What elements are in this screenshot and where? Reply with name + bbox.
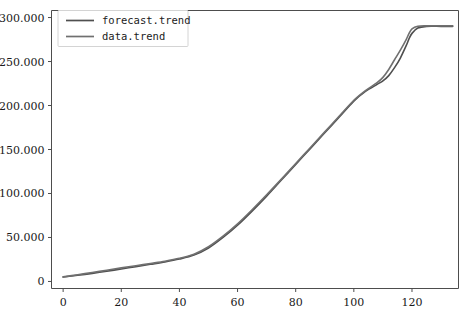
series-line-1	[63, 26, 453, 277]
chart-legend: forecast.trenddata.trend	[58, 11, 191, 47]
y-tick-label: 300.000	[0, 12, 45, 25]
legend-label-1: data.trend	[102, 30, 165, 42]
axes: 050.000100.000150.000200.000250.000300.0…	[0, 11, 459, 309]
x-tick-label: 0	[60, 296, 67, 309]
series-lines	[63, 26, 453, 277]
figure-caption	[0, 313, 465, 325]
x-tick-label: 20	[114, 296, 128, 309]
x-tick-label: 100	[343, 296, 364, 309]
y-tick-label: 200.000	[0, 100, 45, 113]
line-chart: 050.000100.000150.000200.000250.000300.0…	[0, 0, 465, 325]
chart-figure: 050.000100.000150.000200.000250.000300.0…	[0, 0, 465, 325]
x-tick-label: 120	[401, 296, 422, 309]
x-tick-label: 40	[172, 296, 186, 309]
x-tick-label: 80	[289, 296, 303, 309]
y-tick-label: 250.000	[0, 56, 45, 69]
x-tick-label: 60	[231, 296, 245, 309]
y-tick-label: 150.000	[0, 144, 45, 157]
y-tick-label: 100.000	[0, 187, 45, 200]
y-tick-label: 0	[38, 275, 45, 288]
legend-label-0: forecast.trend	[102, 14, 191, 26]
y-tick-label: 50.000	[6, 231, 45, 244]
series-line-0	[63, 26, 453, 277]
